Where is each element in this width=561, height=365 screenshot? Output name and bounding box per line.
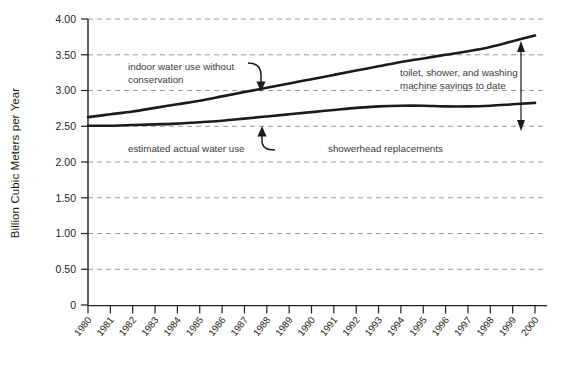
x-tick-label-1999: 1999 [496, 314, 518, 338]
y-axis-title-text: Billion Cubic Meters per Year [9, 88, 21, 239]
x-tick-label-1981: 1981 [94, 314, 116, 338]
y-tick-label-1-00: 1.00 [56, 227, 77, 239]
y-tick-label-4-00: 4.00 [56, 13, 77, 25]
x-tick-label-1984: 1984 [161, 314, 183, 338]
x-tick-label-1996: 1996 [429, 314, 451, 338]
x-axis: 1980198119821983198419851986198719881989… [72, 306, 547, 338]
x-tick-label-1987: 1987 [228, 314, 250, 338]
y-tick-label-0-50: 0.50 [56, 263, 77, 275]
water-use-line-chart: Billion Cubic Meters per Year 4.00 [0, 0, 561, 365]
x-tick-label-1989: 1989 [273, 314, 295, 338]
y-tick-label-0: 0 [70, 299, 76, 311]
x-tick-label-1985: 1985 [184, 314, 206, 338]
x-tick-label-1980: 1980 [72, 314, 94, 338]
x-tick-label-2000: 2000 [519, 314, 541, 338]
annotation-showerhead-line1: showerhead replacements [328, 143, 443, 154]
annotation-savings-line1: toilet, shower, and washing [400, 67, 518, 78]
annotation-arrow-down-icon [248, 63, 261, 83]
y-tick-label-2-00: 2.00 [56, 156, 77, 168]
x-tick-marks [88, 306, 535, 314]
x-tick-label-1986: 1986 [206, 314, 228, 338]
savings-arrowhead-down-icon [517, 120, 525, 131]
x-tick-label-1988: 1988 [251, 314, 273, 338]
y-axis: 4.00 3.50 3.00 2.50 2.00 1.50 1.00 0.50 … [56, 13, 88, 311]
annotation-savings-line2: machine savings to date [400, 80, 506, 91]
annotation-lower-series: estimated actual water use [128, 126, 275, 154]
x-tick-label-1991: 1991 [318, 314, 340, 338]
annotation-lower-series-line1: estimated actual water use [128, 143, 245, 154]
x-tick-label-1994: 1994 [385, 314, 407, 338]
x-tick-label-1990: 1990 [295, 314, 317, 338]
annotation-upper-series: indoor water use without conservation [128, 61, 266, 92]
annotation-arrowhead-up-icon [258, 126, 267, 137]
x-tick-labels: 1980198119821983198419851986198719881989… [72, 314, 541, 338]
x-tick-label-1993: 1993 [362, 314, 384, 338]
chart-canvas: Billion Cubic Meters per Year 4.00 [0, 0, 561, 365]
x-tick-label-1983: 1983 [139, 314, 161, 338]
x-tick-label-1982: 1982 [116, 314, 138, 338]
x-tick-label-1995: 1995 [407, 314, 429, 338]
y-tick-label-3-50: 3.50 [56, 49, 77, 61]
series-line-estimated-actual-water-use [88, 103, 535, 126]
x-tick-label-1998: 1998 [474, 314, 496, 338]
y-tick-label-3-00: 3.00 [56, 84, 77, 96]
y-axis-title: Billion Cubic Meters per Year [9, 88, 21, 239]
annotation-showerhead: showerhead replacements [328, 143, 443, 154]
annotation-upper-series-line2: conservation [128, 74, 184, 85]
savings-arrowhead-up-icon [517, 41, 525, 52]
annotation-arrow-up-icon [262, 135, 275, 150]
annotation-upper-series-line1: indoor water use without [128, 61, 234, 72]
x-tick-label-1997: 1997 [452, 314, 474, 338]
y-tick-label-1-50: 1.50 [56, 192, 77, 204]
y-tick-label-2-50: 2.50 [56, 120, 77, 132]
x-tick-label-1992: 1992 [340, 314, 362, 338]
